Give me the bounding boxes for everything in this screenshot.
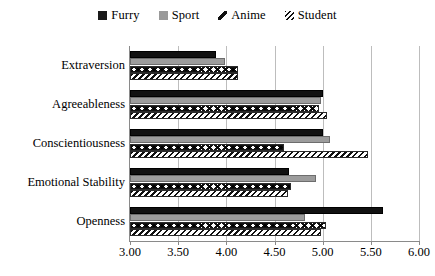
bar-furry-extraversion[interactable]: [130, 51, 216, 58]
legend-label: Furry: [111, 9, 139, 22]
x-axis-tick-label: 6.00: [408, 245, 430, 260]
x-axis-tick-label: 4.50: [264, 245, 286, 260]
plot-area: 3.003.504.004.505.005.506.00Extraversion…: [129, 46, 419, 242]
bar-furry-agreeableness[interactable]: [130, 90, 323, 97]
legend-item-student[interactable]: Student: [285, 9, 337, 22]
y-axis-category-label: Agreeableness: [1, 97, 125, 112]
bar-anime-conscientiousness[interactable]: [130, 144, 284, 151]
legend-label: Student: [298, 9, 337, 22]
diagonal-line-icon: [218, 11, 227, 20]
bar-furry-emotional-stability[interactable]: [130, 168, 289, 175]
legend-item-sport[interactable]: Sport: [159, 9, 200, 22]
bar-sport-emotional-stability[interactable]: [130, 175, 316, 182]
gridline-vertical: [419, 46, 420, 241]
y-axis-category-label: Openness: [1, 214, 125, 229]
legend-label: Sport: [172, 9, 200, 22]
hatched-square-icon: [285, 11, 294, 20]
filled-square-black-icon: [98, 11, 107, 20]
x-axis-tick-label: 5.50: [360, 245, 382, 260]
bar-anime-openness[interactable]: [130, 222, 326, 229]
bar-student-agreeableness[interactable]: [130, 112, 327, 119]
bar-student-extraversion[interactable]: [130, 73, 238, 80]
legend-item-furry[interactable]: Furry: [98, 9, 139, 22]
bar-anime-extraversion[interactable]: [130, 66, 238, 73]
bar-student-openness[interactable]: [130, 229, 321, 236]
x-axis-tick-label: 3.50: [167, 245, 189, 260]
bar-furry-openness[interactable]: [130, 207, 383, 214]
x-axis-tick-label: 4.00: [215, 245, 237, 260]
bar-sport-conscientiousness[interactable]: [130, 136, 330, 143]
y-axis-category-label: Conscientiousness: [1, 136, 125, 151]
bar-sport-extraversion[interactable]: [130, 58, 225, 65]
bar-anime-agreeableness[interactable]: [130, 105, 319, 112]
filled-square-gray-icon: [159, 11, 168, 20]
bar-student-emotional-stability[interactable]: [130, 190, 288, 197]
bar-anime-emotional-stability[interactable]: [130, 183, 291, 190]
bar-chart: FurrySportAnimeStudent 3.003.504.004.505…: [0, 0, 435, 276]
x-axis-tick-label: 3.00: [119, 245, 141, 260]
bar-sport-agreeableness[interactable]: [130, 97, 321, 104]
chart-legend: FurrySportAnimeStudent: [0, 9, 435, 22]
y-axis-category-label: Extraversion: [1, 58, 125, 73]
bar-furry-conscientiousness[interactable]: [130, 129, 323, 136]
legend-label: Anime: [231, 9, 266, 22]
y-axis-category-label: Emotional Stability: [1, 175, 125, 190]
x-axis-tick-label: 5.00: [312, 245, 334, 260]
bar-sport-openness[interactable]: [130, 214, 305, 221]
bar-student-conscientiousness[interactable]: [130, 151, 368, 158]
legend-item-anime[interactable]: Anime: [218, 9, 266, 22]
